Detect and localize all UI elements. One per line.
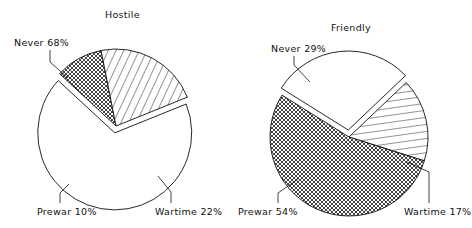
pie-charts-figure: Hostile Never 68% Prewar 10% Wartime 22%… <box>0 0 472 228</box>
hostile-title: Hostile <box>105 9 140 20</box>
friendly-label-prewar: Prewar 54% <box>238 206 298 217</box>
hostile-pie-chart: Hostile Never 68% Prewar 10% Wartime 22% <box>14 9 222 217</box>
hostile-label-prewar: Prewar 10% <box>37 206 97 217</box>
friendly-pie-chart: Friendly Never 29% Prewar 54% Wartime 17… <box>238 22 471 217</box>
hostile-label-never: Never 68% <box>14 37 69 48</box>
hostile-label-wartime: Wartime 22% <box>155 206 222 217</box>
friendly-title: Friendly <box>331 22 371 33</box>
friendly-label-wartime: Wartime 17% <box>404 206 471 217</box>
friendly-label-never: Never 29% <box>271 43 326 54</box>
